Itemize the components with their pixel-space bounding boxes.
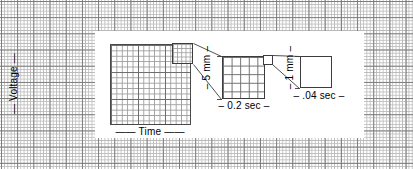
callout-region-large-box [172, 43, 193, 64]
small-box-width-label: – .04 sec – [288, 90, 350, 101]
ecg-calibration-diagram: — Voltage — —— Time —— – 5 mm – – 0.2 se… [0, 0, 413, 169]
time-axis-label: —— Time —— [108, 126, 192, 137]
voltage-axis-label: — Voltage — [8, 49, 19, 119]
callout-region-small-box [263, 55, 273, 65]
large-box-width-label: – 0.2 sec – [213, 100, 275, 111]
large-box-panel [222, 56, 265, 99]
small-box-height-label: – 1 mm – [284, 45, 295, 91]
small-box-panel [300, 56, 332, 88]
large-box-height-label: – 5 mm – [201, 45, 212, 91]
